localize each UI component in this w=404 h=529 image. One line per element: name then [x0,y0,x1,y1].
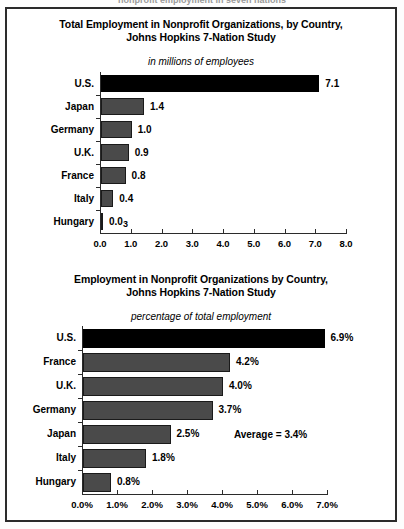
x-axis-tick-label: 7.0 [309,239,322,249]
value-label: 1.4 [150,102,164,112]
bar [83,473,111,492]
value-label: 1.8% [152,453,175,463]
x-axis-tick [152,490,153,495]
category-label: U.S. [57,333,76,343]
category-tick [78,470,83,471]
bar [83,425,171,444]
x-axis-tick-label: 0.0% [71,500,93,510]
figure-page: nonprofit employment in seven nations To… [0,0,404,529]
value-label: 0.8 [132,171,146,181]
bar [101,121,132,138]
category-label: Japan [65,102,94,112]
x-axis-tick-label: 6.0% [281,500,303,510]
x-axis-tick [327,490,328,495]
average-annotation: Average = 3.4% [234,429,307,440]
x-axis-tick [192,229,193,234]
x-axis-tick [285,229,286,234]
x-axis-tick [187,490,188,495]
figure-frame: Total Employment in Nonprofit Organizati… [5,7,397,522]
x-axis-tick [117,490,118,495]
x-axis-tick [346,229,347,234]
x-axis-tick-label: 2.0 [155,239,168,249]
x-axis-tick [131,229,132,234]
category-label: Italy [74,194,94,204]
scan-header-text: nonprofit employment in seven nations [0,0,404,5]
category-tick [96,164,101,165]
category-tick [78,350,83,351]
scan-header-fragment: nonprofit employment in seven nations [0,0,404,7]
category-tick [78,422,83,423]
category-tick [78,446,83,447]
value-label: 1.0 [138,125,152,135]
category-label: Japan [47,429,76,439]
x-axis-tick-label: 0.0 [93,239,106,249]
bar [101,98,144,115]
x-axis-tick-label: 7.0% [316,500,338,510]
bar [83,449,146,468]
value-label: 0.8% [117,477,140,487]
category-tick [78,398,83,399]
bar [101,75,319,92]
x-axis-tick [315,229,316,234]
category-tick [96,118,101,119]
bar [83,377,223,396]
x-axis-tick-label: 1.0 [124,239,137,249]
plot-area: U.S.7.1Japan1.4Germany1.0U.K.0.9France0.… [7,69,395,249]
x-axis-tick-label: 2.0% [141,500,163,510]
chart-title-line1: Employment in Nonprofit Organizations by… [74,273,328,285]
category-tick [78,374,83,375]
x-axis-tick-label: 5.0 [247,239,260,249]
bar [101,144,129,161]
value-label: 7.1 [325,79,339,89]
category-tick [96,95,101,96]
value-label: 3.7% [219,405,242,415]
category-label: Hungary [53,217,94,227]
bar [83,401,213,420]
x-axis-tick [100,229,101,234]
x-axis-tick [82,490,83,495]
category-label: France [43,357,76,367]
bar [101,190,113,207]
category-label: U.S. [75,79,94,89]
x-axis-tick-label: 4.0 [216,239,229,249]
chart-subtitle: percentage of total employment [7,299,395,322]
x-axis-tick [222,490,223,495]
category-tick [96,210,101,211]
category-label: U.K. [56,381,76,391]
category-label: Italy [56,453,76,463]
value-label: 2.5% [177,429,200,439]
category-label: U.K. [74,148,94,158]
x-axis-tick [162,229,163,234]
value-label: 4.0% [229,381,252,391]
chart-title-line1: Total Employment in Nonprofit Organizati… [59,18,342,30]
value-label: 6.9% [331,333,354,343]
chart-title: Total Employment in Nonprofit Organizati… [7,9,395,44]
x-axis-tick-label: 4.0% [211,500,233,510]
bar [101,167,126,184]
value-label: 4.2% [236,357,259,367]
bar [83,329,325,348]
chart-title: Employment in Nonprofit Organizations by… [7,261,395,299]
chart-total-employment: Total Employment in Nonprofit Organizati… [7,9,395,261]
plot-area: U.S.6.9%France4.2%U.K.4.0%Germany3.7%Jap… [7,323,395,508]
x-axis-tick [254,229,255,234]
category-label: Germany [51,125,94,135]
x-axis-tick [292,490,293,495]
category-label: Hungary [35,477,76,487]
chart-title-line2: Johns Hopkins 7-Nation Study [126,31,275,43]
category-tick [96,141,101,142]
category-label: Germany [33,405,76,415]
bar [83,353,230,372]
x-axis-tick [257,490,258,495]
value-label: 0.9 [135,148,149,158]
x-axis-tick-label: 6.0 [278,239,291,249]
x-axis-tick [223,229,224,234]
bar [101,213,103,230]
x-axis-tick-label: 1.0% [106,500,128,510]
chart-subtitle: in millions of employees [7,44,395,67]
category-tick [96,187,101,188]
chart-title-line2: Johns Hopkins 7-Nation Study [126,286,275,298]
chart-percentage-employment: Employment in Nonprofit Organizations by… [7,261,395,520]
x-axis-tick-label: 3.0 [186,239,199,249]
x-axis-tick-label: 5.0% [246,500,268,510]
